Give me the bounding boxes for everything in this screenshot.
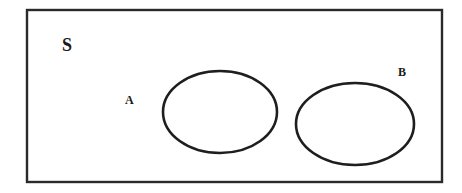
venn-diagram: S A B xyxy=(0,0,462,193)
set-a-label: A xyxy=(125,93,134,107)
set-b-label: B xyxy=(398,65,406,79)
set-a-ellipse xyxy=(163,71,277,153)
sample-space-box xyxy=(27,10,442,182)
sample-space-label: S xyxy=(62,35,72,55)
set-b-ellipse xyxy=(296,83,414,165)
